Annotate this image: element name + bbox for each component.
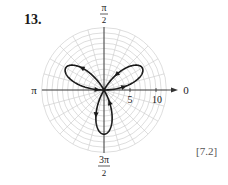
- label-3pi-over-2-denominator: 2: [102, 168, 107, 178]
- label-3pi-over-2-numerator: 3π: [99, 154, 109, 165]
- label-pi-over-2-numerator: π: [101, 2, 106, 13]
- tick-label-5: 5: [128, 94, 133, 105]
- polar-plot: π 2 π 0 5 10 3π 2: [0, 0, 228, 185]
- tick-label-10: 10: [152, 94, 162, 105]
- label-pi: π: [31, 84, 37, 96]
- label-pi-over-2-denominator: 2: [102, 15, 107, 25]
- label-zero: 0: [183, 84, 189, 96]
